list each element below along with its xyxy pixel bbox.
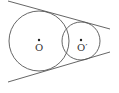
center-point-o-prime [80, 39, 82, 41]
label-o-prime: O′ [77, 43, 87, 53]
label-o: O [35, 43, 43, 53]
center-point-o [38, 39, 40, 41]
diagram-svg [0, 0, 119, 93]
diagram-canvas: O O′ [0, 0, 119, 93]
